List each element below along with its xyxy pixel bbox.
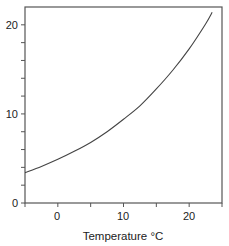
plot-area bbox=[21, 7, 222, 207]
plot-frame bbox=[25, 7, 222, 203]
x-axis-title: Temperature °C bbox=[83, 230, 164, 242]
data-line bbox=[25, 12, 212, 172]
x-tick-label-0: 0 bbox=[54, 210, 60, 222]
y-tick-label-10: 10 bbox=[6, 108, 18, 120]
y-tick-label-20: 20 bbox=[6, 19, 18, 31]
y-tick-label-0: 0 bbox=[12, 197, 18, 209]
x-tick-label-20: 20 bbox=[183, 210, 195, 222]
x-tick-label-10: 10 bbox=[117, 210, 129, 222]
chart: 0 10 20 0 10 20 Temperature °C bbox=[0, 0, 229, 246]
